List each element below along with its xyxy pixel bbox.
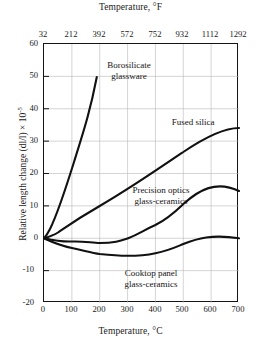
annotation-borosilicate-glassware: Borosilicate glassware	[93, 60, 165, 81]
ytick-40: 40	[14, 103, 38, 113]
ytick-60: 60	[14, 38, 38, 48]
ytick-30: 30	[14, 135, 38, 145]
ytick-neg10: -10	[10, 264, 34, 274]
ytick-0: 0	[14, 232, 38, 242]
annotation-cooktop-line2: glass-ceramics	[108, 279, 194, 290]
bottom-axis-title: Temperature, °C	[0, 326, 261, 336]
xtick-bottom-7: 700	[218, 304, 258, 314]
annotation-borosilicate-line1: Borosilicate	[93, 60, 165, 71]
expansion-chart-figure: Temperature, °F Relative length change (…	[0, 0, 261, 346]
annotation-fused-silica: Fused silica	[163, 117, 223, 128]
ytick-20: 20	[14, 167, 38, 177]
annotation-precision-optics: Precision optics glass-ceramics	[118, 185, 204, 206]
annotation-borosilicate-line2: glassware	[93, 71, 165, 82]
ytick-50: 50	[14, 70, 38, 80]
annotation-fused-silica-line1: Fused silica	[163, 117, 223, 128]
plot-area	[43, 43, 238, 302]
top-axis-title: Temperature, °F	[0, 2, 261, 12]
annotation-cooktop-line1: Cooktop panel	[108, 268, 194, 279]
annotation-cooktop-panel: Cooktop panel glass-ceramics	[108, 268, 194, 289]
curve-fused-silica	[44, 128, 239, 238]
xtick-top-7: 1292	[218, 29, 258, 39]
y-axis-tickmarks	[44, 76, 49, 270]
annotation-precision-optics-line2: glass-ceramics	[118, 196, 204, 207]
ytick-10: 10	[14, 200, 38, 210]
plot-svg	[44, 44, 239, 303]
ytick-neg20: -20	[10, 297, 34, 307]
annotation-precision-optics-line1: Precision optics	[118, 185, 204, 196]
curve-borosilicate-glassware	[44, 77, 97, 238]
curve-cooktop-panel-glass-ceramics	[44, 237, 239, 256]
